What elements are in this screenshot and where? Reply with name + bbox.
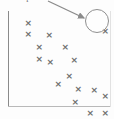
highlight-circle-annotation — [85, 9, 109, 33]
data-point — [102, 93, 109, 100]
figure-caption: example. — [6, 0, 68, 2]
data-point — [46, 32, 53, 39]
data-point — [25, 20, 32, 27]
data-point — [25, 31, 32, 38]
scatter-plot-figure: example. — [0, 0, 114, 119]
data-point — [36, 44, 43, 51]
data-point — [47, 59, 54, 66]
data-point — [91, 87, 98, 94]
data-point — [66, 73, 73, 80]
data-point — [71, 57, 78, 64]
data-point — [75, 86, 82, 93]
data-point — [87, 110, 94, 117]
data-point — [36, 56, 43, 63]
data-point — [72, 99, 79, 106]
data-point — [102, 110, 109, 117]
data-point — [62, 44, 69, 51]
data-point — [55, 81, 62, 88]
